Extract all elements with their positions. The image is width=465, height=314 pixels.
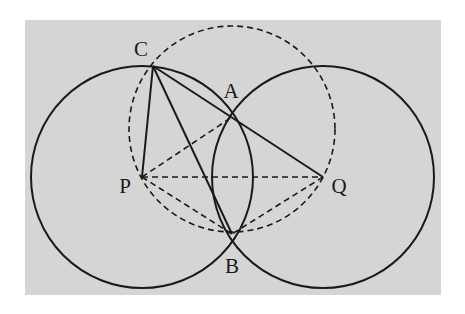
point-label-B: B xyxy=(225,254,239,278)
geometry-diagram: C A P Q B xyxy=(0,0,465,314)
point-label-Q: Q xyxy=(331,174,346,198)
point-label-C: C xyxy=(134,37,148,61)
point-label-A: A xyxy=(223,79,239,103)
point-label-P: P xyxy=(119,174,131,198)
